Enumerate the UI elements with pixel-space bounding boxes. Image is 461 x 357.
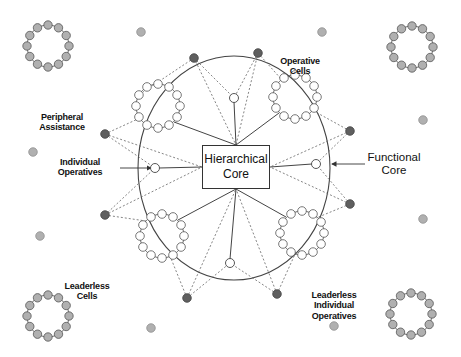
cell-member-node — [425, 299, 433, 307]
cell-ring-line — [27, 25, 69, 67]
cell-bottom-left — [136, 210, 189, 263]
op-left — [151, 164, 160, 173]
cell-ring-line — [391, 26, 433, 68]
cell-top-left — [132, 80, 185, 133]
label-line: Individual — [58, 157, 103, 167]
cell-member-node — [387, 43, 395, 51]
cell-member-node — [407, 289, 415, 297]
cell-member-node — [390, 53, 398, 61]
label-line: Operative — [280, 56, 320, 66]
cell-member-node — [132, 102, 141, 111]
cell-member-node — [426, 32, 434, 40]
cell-member-node — [317, 218, 326, 227]
lc-bottom-right — [386, 289, 436, 339]
dashed-link — [234, 53, 258, 98]
lead-left-lower — [101, 211, 110, 220]
cell-member-node — [44, 291, 52, 299]
cell-member-node — [298, 207, 307, 216]
hierarchical-core-box: Hierarchical Core — [202, 145, 270, 189]
dashed-link — [270, 131, 350, 167]
cell-member-node — [320, 229, 329, 238]
cell-member-node — [180, 232, 189, 241]
dashed-link — [105, 215, 146, 221]
cell-member-node — [136, 232, 145, 241]
cell-member-node — [44, 63, 52, 71]
lead-left-upper — [101, 130, 110, 139]
cell-member-node — [65, 312, 73, 320]
cell-member-node — [279, 240, 288, 249]
cell-member-node — [139, 243, 148, 252]
lead-right-upper — [346, 127, 355, 136]
cell-member-node — [176, 102, 185, 111]
leaderless-individual-dot — [330, 322, 339, 331]
cell-ring-line — [27, 295, 69, 337]
cell-member-node — [33, 24, 41, 32]
cell-member-node — [54, 294, 62, 302]
lc-top-right — [387, 22, 437, 72]
cell-member-node — [173, 113, 182, 122]
cell-member-node — [54, 330, 62, 338]
solid-link — [159, 167, 202, 168]
cell-member-node — [298, 251, 307, 260]
op-top — [230, 94, 239, 103]
label-functional-core: FunctionalCore — [367, 151, 420, 177]
cell-ring-line — [136, 84, 180, 128]
cell-member-node — [272, 104, 281, 113]
op-right — [312, 160, 321, 169]
solid-link — [234, 102, 236, 145]
cell-ring-line — [140, 214, 184, 258]
dashed-link — [236, 189, 277, 294]
label-individual-operatives: IndividualOperatives — [58, 157, 103, 178]
label-line: Peripheral — [39, 112, 85, 122]
solid-link — [230, 189, 236, 259]
cell-member-node — [279, 218, 288, 227]
dashed-link — [105, 134, 155, 168]
label-line: Leaderless — [64, 281, 109, 291]
dashed-link — [312, 110, 350, 131]
label-leaderless-cells: LeaderlessCells — [64, 281, 109, 302]
cell-member-node — [317, 240, 326, 249]
cell-member-node — [154, 80, 163, 89]
cell-member-node — [62, 31, 70, 39]
cell-member-node — [62, 322, 70, 330]
leaderless-individual-dot — [318, 28, 327, 37]
dashed-link — [270, 167, 350, 204]
lc-top-left — [23, 21, 73, 71]
leaderless-individual-dot — [419, 215, 428, 224]
lead-top-right — [254, 49, 263, 58]
solid-link — [236, 113, 279, 145]
lead-bottom-left — [183, 294, 192, 303]
label-line: Operatives — [311, 311, 356, 321]
cell-member-node — [390, 32, 398, 40]
leaderless-individual-dot — [137, 28, 146, 37]
solid-link — [174, 122, 236, 145]
cell-member-node — [408, 64, 416, 72]
cell-member-node — [397, 25, 405, 33]
dashed-link — [194, 58, 234, 98]
dashed-link — [187, 263, 230, 298]
cell-member-node — [287, 248, 296, 257]
cell-member-node — [276, 229, 285, 238]
dashed-link — [105, 167, 202, 215]
cell-member-node — [33, 330, 41, 338]
cell-member-node — [169, 213, 178, 222]
cell-member-node — [143, 121, 152, 130]
cell-member-node — [291, 115, 300, 124]
label-line: Functional — [367, 151, 420, 164]
cell-member-node — [408, 22, 416, 30]
label-line: Individual — [311, 300, 356, 310]
cell-member-node — [302, 112, 311, 121]
cell-member-node — [396, 328, 404, 336]
cell-member-node — [26, 322, 34, 330]
cell-bottom-right — [276, 207, 329, 260]
cell-member-node — [397, 61, 405, 69]
label-peripheral-assistance: PeripheralAssistance — [39, 112, 85, 133]
cell-member-node — [309, 210, 318, 219]
dashed-link — [316, 131, 350, 164]
label-line: Core — [367, 164, 420, 177]
cell-member-node — [54, 60, 62, 68]
cell-member-node — [418, 61, 426, 69]
cell-member-node — [65, 42, 73, 50]
cell-member-node — [62, 52, 70, 60]
cell-member-node — [429, 43, 437, 51]
